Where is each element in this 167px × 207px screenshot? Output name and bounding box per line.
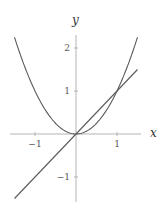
y-axis-label: y xyxy=(71,13,79,27)
x-tick-label-1: 1 xyxy=(114,139,120,149)
x-tick-label-neg1: −1 xyxy=(28,139,41,149)
plot-area: −1 1 2 1 −1 x y xyxy=(0,0,167,207)
y-tick-label-neg1: −1 xyxy=(57,172,70,182)
y-tick-label-1: 1 xyxy=(64,86,70,96)
x-axis-label: x xyxy=(150,126,157,140)
y-tick-label-2: 2 xyxy=(64,43,70,53)
